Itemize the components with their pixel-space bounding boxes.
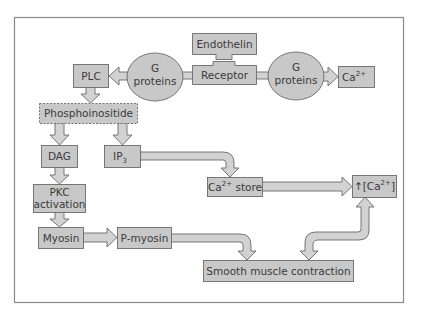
connector-receptor-gright xyxy=(255,72,269,79)
label-ip3-sub: 3 xyxy=(122,157,126,165)
label-ca-store: Ca2+ store xyxy=(208,180,262,193)
label-pkc-line2: activation xyxy=(33,198,85,210)
label-ca-store-base: Ca xyxy=(208,181,222,193)
label-g-left-line2: proteins xyxy=(134,75,177,87)
label-ca-increase-sup: 2+ xyxy=(381,179,391,187)
label-smooth-muscle-contraction: Smooth muscle contraction xyxy=(206,265,350,277)
label-ca-increase-prefix: ↑[Ca xyxy=(354,180,381,192)
label-phosphoinositide: Phosphoinositide xyxy=(44,107,133,119)
label-ca-increase-suffix: ] xyxy=(391,180,395,192)
label-ca-store-sup: 2+ xyxy=(222,180,232,188)
label-pkc-line1: PKC xyxy=(50,186,70,198)
label-myosin: Myosin xyxy=(43,232,80,244)
label-g-left-line1: G xyxy=(151,62,159,74)
label-g-right-line1: G xyxy=(292,61,300,73)
label-ca-top-sup: 2+ xyxy=(356,70,366,78)
label-ca-store-suffix: store xyxy=(232,181,262,193)
label-g-right-line2: proteins xyxy=(275,74,318,86)
endothelin-signaling-diagram: Endothelin Receptor G proteins G protein… xyxy=(0,0,422,317)
label-ip3-base: IP xyxy=(113,150,122,162)
label-ca-top-base: Ca xyxy=(342,71,356,83)
label-endothelin: Endothelin xyxy=(196,38,252,50)
label-p-myosin: P-myosin xyxy=(121,232,169,244)
label-dag: DAG xyxy=(48,150,71,162)
label-receptor: Receptor xyxy=(201,69,249,81)
label-plc: PLC xyxy=(81,70,101,82)
